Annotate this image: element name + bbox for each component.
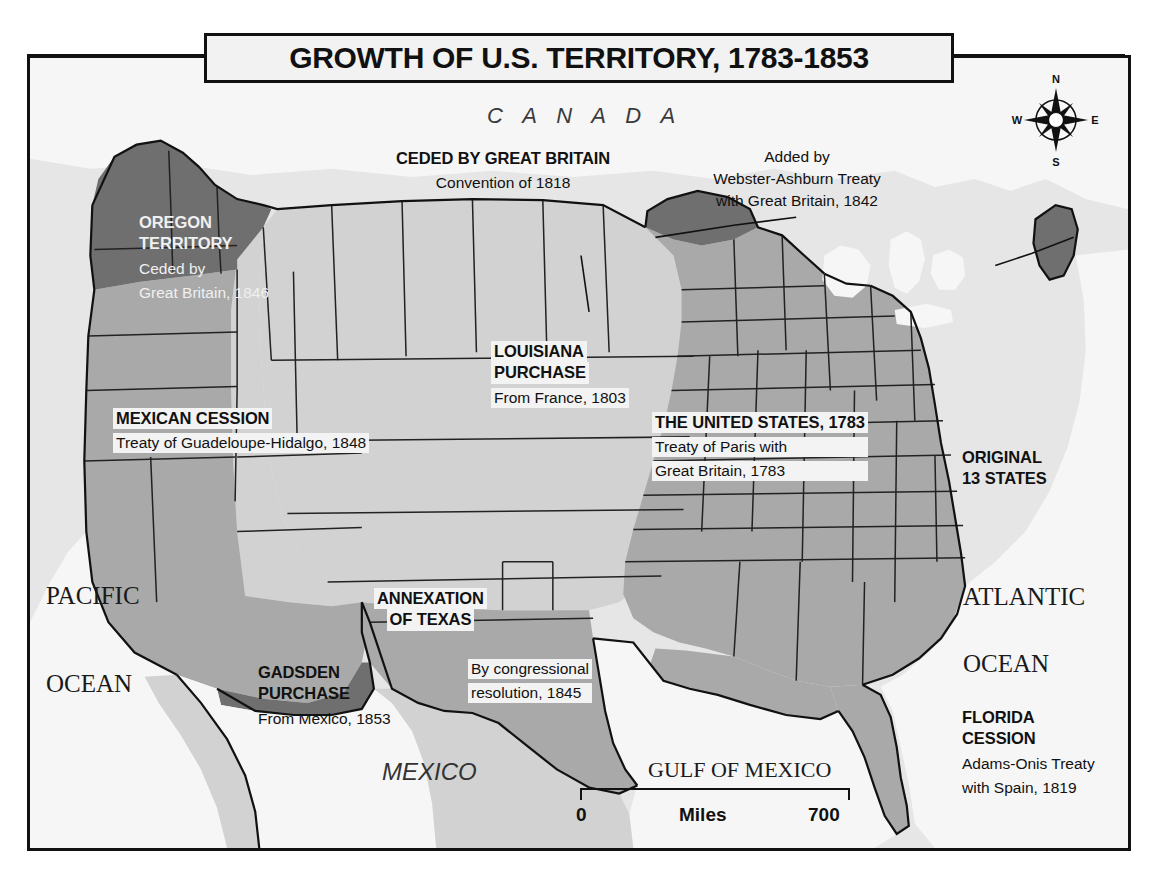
oregon-sub-1: Ceded by (139, 259, 269, 279)
geo-label-gulf-of-mexico: GULF OF MEXICO (648, 757, 831, 783)
gadsden-heading-2: PURCHASE (258, 683, 350, 704)
oregon-heading: OREGON (139, 212, 212, 233)
ceded-britain-sub: Convention of 1818 (396, 173, 610, 193)
compass-south-label: S (1052, 156, 1059, 168)
label-annexation-of-texas: ANNEXATION OF TEXAS (374, 588, 487, 631)
texas-sub-2: resolution, 1845 (468, 683, 592, 703)
title-rule-left (27, 54, 207, 57)
florida-heading: FLORIDA (962, 707, 1035, 728)
label-original-13-states: ORIGINAL 13 STATES (962, 447, 1047, 490)
label-florida-cession: FLORIDA CESSION Adams-Onis Treaty with S… (962, 707, 1095, 798)
geo-label-pacific-ocean: OCEAN (46, 670, 132, 698)
label-texas-detail: By congressional resolution, 1845 (468, 655, 592, 703)
louisiana-heading: LOUISIANA (491, 341, 587, 362)
united-states-heading: THE UNITED STATES, 1783 (652, 412, 868, 433)
scale-label-unit: Miles (679, 804, 727, 826)
texas-heading: ANNEXATION (374, 588, 487, 609)
original13-heading: ORIGINAL (962, 447, 1042, 468)
compass-rose: N S E W (1008, 66, 1104, 170)
label-oregon-territory: OREGON TERRITORY Ceded by Great Britain,… (139, 212, 269, 303)
mexican-cession-sub: Treaty of Guadeloupe-Hidalgo, 1848 (113, 433, 369, 453)
oregon-sub-2: Great Britain, 1846 (139, 283, 269, 303)
label-mexican-cession: MEXICAN CESSION Treaty of Guadeloupe-Hid… (113, 408, 369, 453)
ceded-britain-heading: CEDED BY GREAT BRITAIN (396, 148, 610, 169)
gadsden-heading: GADSDEN (258, 662, 340, 683)
gadsden-sub: From Mexico, 1853 (258, 709, 391, 729)
label-ceded-by-great-britain: CEDED BY GREAT BRITAIN Convention of 181… (396, 148, 610, 193)
annotation-webster-ashburton: Added by Webster-Ashburn Treaty with Gre… (672, 146, 922, 212)
scale-bar-rule (580, 788, 850, 800)
label-gadsden-purchase: GADSDEN PURCHASE From Mexico, 1853 (258, 662, 391, 729)
louisiana-heading-2: PURCHASE (491, 362, 589, 383)
geo-label-mexico: MEXICO (382, 758, 477, 786)
texas-heading-2: OF TEXAS (387, 609, 475, 630)
geo-label-atlantic-ocean: OCEAN (963, 650, 1049, 678)
florida-heading-2: CESSION (962, 728, 1036, 749)
label-united-states-1783: THE UNITED STATES, 1783 Treaty of Paris … (652, 412, 868, 481)
united-states-sub-2: Great Britain, 1783 (652, 461, 868, 481)
geo-label-atlantic: ATLANTIC (963, 583, 1085, 611)
map-scale-bar: 0 Miles 700 (580, 788, 870, 840)
original13-heading-2: 13 STATES (962, 468, 1047, 489)
map-title: GROWTH OF U.S. TERRITORY, 1783-1853 (204, 33, 954, 83)
louisiana-sub: From France, 1803 (491, 388, 629, 408)
compass-north-label: N (1052, 73, 1060, 85)
texas-sub-1: By congressional (468, 659, 592, 679)
title-rule-right (945, 54, 1125, 57)
label-louisiana-purchase: LOUISIANA PURCHASE From France, 1803 (491, 341, 629, 408)
geo-label-canada: C A N A D A (487, 103, 682, 129)
webster-line-3: with Great Britain, 1842 (716, 192, 878, 209)
scale-label-max: 700 (808, 804, 840, 826)
compass-west-label: W (1012, 114, 1023, 126)
united-states-sub-1: Treaty of Paris with (652, 437, 868, 457)
florida-sub-1: Adams-Onis Treaty (962, 754, 1095, 774)
oregon-heading-2: TERRITORY (139, 233, 233, 254)
scale-label-zero: 0 (576, 804, 587, 826)
florida-sub-2: with Spain, 1819 (962, 778, 1095, 798)
webster-line-1: Added by (764, 148, 830, 165)
map-title-text: GROWTH OF U.S. TERRITORY, 1783-1853 (289, 41, 869, 75)
geo-label-pacific: PACIFIC (46, 582, 140, 610)
mexican-cession-heading: MEXICAN CESSION (113, 408, 272, 429)
webster-line-2: Webster-Ashburn Treaty (713, 170, 881, 187)
compass-east-label: E (1091, 114, 1098, 126)
map-poster: GROWTH OF U.S. TERRITORY, 1783-1853 .lt{… (0, 0, 1152, 887)
